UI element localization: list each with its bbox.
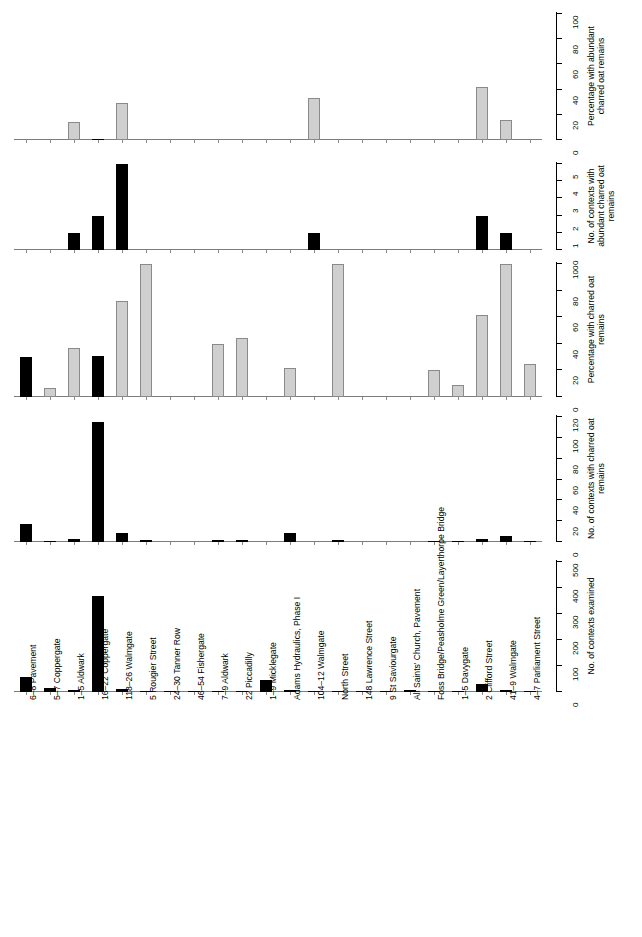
x-axis-tick: [530, 692, 531, 695]
y-axis-tick: [557, 215, 562, 216]
category-label: 9 St Saviourgate: [389, 636, 398, 700]
x-axis-tick: [482, 397, 483, 400]
y-axis-tick-label: 80: [572, 45, 580, 54]
y-axis-tick: [557, 63, 562, 64]
bar: [308, 98, 320, 140]
y-axis-tick: [557, 665, 562, 666]
chart-panel-2: 012345No. of contexts with abundant char…: [0, 162, 642, 250]
x-axis-tick: [506, 140, 507, 143]
y-axis-tick: [557, 561, 562, 562]
x-axis-tick: [98, 542, 99, 545]
x-axis-tick: [242, 542, 243, 545]
bar: [308, 233, 320, 250]
x-axis-tick: [362, 140, 363, 143]
x-axis-tick: [386, 140, 387, 143]
x-axis-tick: [146, 140, 147, 143]
y-axis-tick-label: 40: [572, 96, 580, 105]
x-axis-tick: [458, 250, 459, 253]
x-axis-tick: [314, 542, 315, 545]
y-axis-tick-label: 0: [572, 553, 580, 557]
y-axis-title: No. of contexts examined: [586, 560, 616, 692]
y-axis-tick: [557, 249, 562, 250]
category-label: 6–8 Pavement: [29, 645, 38, 700]
x-axis-tick: [122, 250, 123, 253]
x-axis-tick: [122, 542, 123, 545]
x-axis-tick: [50, 397, 51, 400]
y-axis-tick-label: 100: [572, 16, 580, 29]
y-axis-tick-label: 100: [572, 439, 580, 452]
y-axis-tick-label: 20: [572, 527, 580, 536]
x-axis-tick: [410, 692, 411, 695]
x-axis-tick: [530, 250, 531, 253]
x-axis-tick: [434, 140, 435, 143]
x-axis-tick: [314, 397, 315, 400]
y-axis-tick-label: 100: [572, 668, 580, 681]
x-axis-tick: [530, 542, 531, 545]
y-axis-tick: [557, 691, 562, 692]
bar: [452, 385, 464, 397]
x-axis-tick: [170, 140, 171, 143]
category-label: 7–9 Aldwark: [221, 653, 230, 700]
y-axis-tick: [557, 114, 562, 115]
category-label: 22 Piccadilly: [245, 652, 254, 700]
y-axis-tick: [557, 613, 562, 614]
x-axis-tick: [50, 692, 51, 695]
category-label: 2 Clifford Street: [485, 640, 494, 700]
y-axis-tick-label: 40: [572, 350, 580, 359]
x-axis-tick: [506, 692, 507, 695]
bar: [284, 368, 296, 397]
x-axis-tick: [482, 250, 483, 253]
x-axis-tick: [386, 542, 387, 545]
x-axis-tick: [506, 397, 507, 400]
category-label: 104–12 Walmgate: [317, 631, 326, 700]
y-axis-tick-label: 200: [572, 642, 580, 655]
y-axis-tick-label: 3: [572, 209, 580, 213]
y-axis-line: [556, 162, 557, 250]
category-label: 24–30 Tanner Row: [173, 628, 182, 700]
x-axis-tick: [338, 397, 339, 400]
category-label: 5 Rougier Street: [149, 637, 158, 700]
category-label: 41–9 Walmgate: [509, 640, 518, 700]
y-axis-tick: [557, 180, 562, 181]
x-axis-tick: [266, 692, 267, 695]
y-axis-tick: [557, 163, 562, 164]
bar: [476, 216, 488, 250]
x-axis-tick: [434, 692, 435, 695]
bar: [92, 216, 104, 250]
x-axis-tick: [26, 250, 27, 253]
x-axis-tick: [338, 542, 339, 545]
y-axis-tick-label: 60: [572, 486, 580, 495]
x-axis-tick: [74, 397, 75, 400]
x-axis-tick: [170, 250, 171, 253]
y-axis-tick: [557, 639, 562, 640]
x-axis-tick: [74, 542, 75, 545]
y-axis-tick: [557, 396, 562, 397]
x-axis-tick: [314, 250, 315, 253]
x-axis-tick: [362, 692, 363, 695]
bar: [452, 541, 464, 543]
y-axis-line: [556, 262, 557, 397]
x-axis-tick: [386, 692, 387, 695]
y-axis-tick: [557, 499, 562, 500]
bar: [116, 533, 128, 542]
y-axis-title: Percentage with abundant charred oat rem…: [586, 12, 616, 140]
y-axis-title: Percentage with charred oat remains: [586, 262, 616, 397]
y-axis-tick-label: 300: [572, 616, 580, 629]
y-axis-tick: [557, 290, 562, 291]
y-axis-tick-label: 0: [572, 703, 580, 707]
x-axis-tick: [170, 397, 171, 400]
x-axis-tick: [506, 542, 507, 545]
bar: [92, 356, 104, 397]
plot-area: [14, 162, 542, 250]
x-axis-tick: [218, 692, 219, 695]
x-axis-tick: [458, 692, 459, 695]
x-axis-tick: [314, 140, 315, 143]
y-axis-tick: [557, 520, 562, 521]
x-axis-tick: [290, 250, 291, 253]
bar: [500, 536, 512, 542]
x-axis-tick: [314, 692, 315, 695]
x-axis-tick: [194, 542, 195, 545]
category-label: North Street: [341, 654, 350, 700]
x-axis-tick: [26, 397, 27, 400]
y-axis-line: [556, 560, 557, 692]
